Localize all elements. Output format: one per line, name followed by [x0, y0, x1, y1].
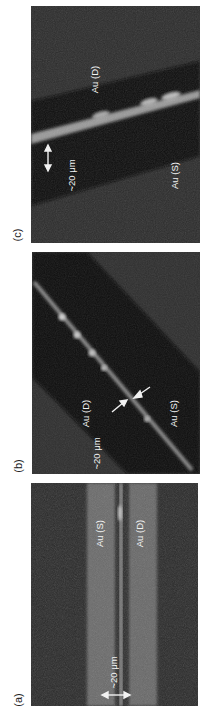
panel-a: Au (S) Au (D) ~20 μm — [31, 483, 198, 706]
panel-c: Au (D) Au (S) ~20 μm — [31, 6, 200, 243]
scale-label: ~20 μm — [66, 159, 77, 191]
label-au-d: Au (D) — [89, 66, 100, 93]
micrograph-b — [32, 252, 200, 474]
panel-label-a: (a) — [12, 693, 24, 706]
label-au-s: Au (S) — [168, 400, 179, 427]
micrograph-c — [31, 6, 200, 243]
panel-label-b: (b) — [12, 459, 24, 472]
scale-label: ~20 μm — [91, 437, 102, 469]
label-au-s: Au (S) — [169, 162, 180, 189]
scale-label: ~20 μm — [108, 656, 119, 688]
label-au-s: Au (S) — [94, 520, 105, 547]
panel-label-c: (c) — [11, 229, 23, 242]
label-au-d: Au (D) — [80, 400, 91, 427]
panel-b: Au (D) Au (S) ~20 μm — [32, 252, 200, 474]
label-au-d: Au (D) — [134, 520, 145, 547]
